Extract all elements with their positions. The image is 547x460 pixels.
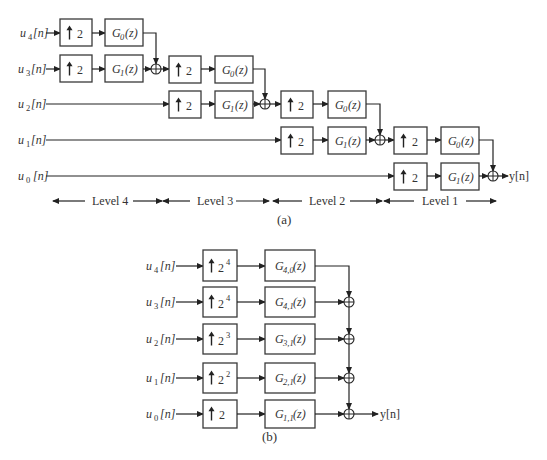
svg-text:2: 2 <box>298 99 304 113</box>
row-b-u4: u 4 [n] 2 4 G 4,0 (z) <box>146 250 349 297</box>
svg-text:u: u <box>146 407 152 421</box>
svg-text:(z): (z) <box>461 134 474 148</box>
svg-text:u: u <box>20 26 26 40</box>
svg-text:[n]: [n] <box>160 371 176 385</box>
output-label-a: y[n] <box>509 169 529 183</box>
svg-text:u: u <box>146 259 152 273</box>
svg-text:2: 2 <box>77 63 83 77</box>
svg-text:3,1: 3,1 <box>282 338 294 348</box>
svg-text:1: 1 <box>230 104 234 114</box>
svg-text:[n]: [n] <box>160 407 176 421</box>
input-label-u2: u 2 [n] <box>18 97 47 113</box>
svg-text:2: 2 <box>226 369 230 379</box>
svg-text:1: 1 <box>456 176 460 186</box>
filter-g0-l3: G 0 (z) <box>215 56 253 83</box>
row-b-u1: u 1 [n] 2 2 G 2,1 (z) <box>146 363 354 409</box>
svg-text:2: 2 <box>186 99 192 113</box>
svg-text:[n]: [n] <box>31 97 47 111</box>
svg-text:(z): (z) <box>461 170 474 184</box>
adder-l4 <box>151 64 161 74</box>
input-label-u4: u 4 [n] <box>20 26 49 42</box>
svg-text:u: u <box>18 97 24 111</box>
svg-text:2: 2 <box>218 373 224 387</box>
filter-g1-l3: G 1 (z) <box>215 91 253 118</box>
adder-l3 <box>260 99 270 109</box>
level-1-label: Level 1 <box>422 194 458 208</box>
svg-text:2: 2 <box>219 408 225 422</box>
adder-l2 <box>375 135 385 145</box>
filter-g0-l4: G 0 (z) <box>105 19 143 46</box>
input-label-u1: u 1 [n] <box>18 133 47 149</box>
upsampler-l4-u4: 2 <box>60 19 92 46</box>
svg-text:2: 2 <box>218 297 224 311</box>
adder-l1 <box>488 171 498 181</box>
svg-text:0: 0 <box>154 413 158 423</box>
svg-text:u: u <box>146 295 152 309</box>
row-b-u0: u 0 [n] 2 G 1,1 (z) y[n] <box>146 400 400 428</box>
svg-text:[n]: [n] <box>160 332 176 346</box>
svg-text:(z): (z) <box>293 295 306 309</box>
svg-text:(z): (z) <box>293 407 306 421</box>
svg-text:2: 2 <box>218 334 224 348</box>
caption-b: (b) <box>262 429 277 444</box>
svg-text:1: 1 <box>120 68 124 78</box>
filter-g1-l1: G 1 (z) <box>441 163 479 190</box>
filter-g0-l1: G 0 (z) <box>441 127 479 154</box>
svg-text:2: 2 <box>412 171 418 185</box>
svg-text:1: 1 <box>154 377 158 387</box>
svg-text:(z): (z) <box>348 134 361 148</box>
svg-text:u: u <box>18 169 24 183</box>
svg-text:[n]: [n] <box>31 62 47 76</box>
adder-b-1 <box>344 297 354 307</box>
upsampler-l2-top: 2 <box>281 91 313 118</box>
figure-b: u 4 [n] 2 4 G 4,0 (z) u 3 [n] 2 4 <box>146 250 400 444</box>
svg-text:u: u <box>18 133 24 147</box>
svg-text:[n]: [n] <box>160 259 176 273</box>
level-2-label: Level 2 <box>309 194 345 208</box>
figure-a: u 4 [n] u 3 [n] u 2 [n] u 1 [n] u 0 [n] <box>18 19 529 227</box>
level-4-label: Level 4 <box>92 194 128 208</box>
filter-bank-figure: u 4 [n] u 3 [n] u 2 [n] u 1 [n] u 0 [n] <box>0 0 547 460</box>
svg-text:4: 4 <box>154 265 159 275</box>
row-b-u3: u 3 [n] 2 4 G 4,1 (z) <box>146 287 354 334</box>
svg-text:3: 3 <box>26 68 30 78</box>
svg-text:(z): (z) <box>235 63 248 77</box>
svg-text:(z): (z) <box>125 62 138 76</box>
svg-text:[n]: [n] <box>31 133 47 147</box>
upsampler-l3-u2: 2 <box>169 91 201 118</box>
svg-text:2: 2 <box>186 64 192 78</box>
svg-text:2: 2 <box>77 27 83 41</box>
svg-text:3: 3 <box>154 301 158 311</box>
caption-a: (a) <box>277 212 291 227</box>
svg-text:1: 1 <box>26 139 30 149</box>
svg-text:2: 2 <box>298 135 304 149</box>
adder-b-3 <box>344 373 354 383</box>
svg-text:1: 1 <box>343 140 347 150</box>
upsampler-l2-u1: 2 <box>281 127 313 154</box>
upsampler-l1-top: 2 <box>394 127 427 154</box>
upsampler-l4-u3: 2 <box>60 55 92 82</box>
adder-b-2 <box>344 334 354 344</box>
filter-g1-l4: G 1 (z) <box>105 55 143 82</box>
upsampler-l3-top: 2 <box>169 56 201 83</box>
filter-g1-l2: G 1 (z) <box>328 127 366 154</box>
svg-text:(z): (z) <box>125 26 138 40</box>
svg-text:u: u <box>146 371 152 385</box>
svg-text:(z): (z) <box>293 371 306 385</box>
input-label-u0: u 0 [n] <box>18 169 49 185</box>
svg-text:2: 2 <box>26 103 30 113</box>
svg-text:u: u <box>146 332 152 346</box>
svg-text:(z): (z) <box>293 259 306 273</box>
upsampler-l1-u0: 2 <box>394 163 427 190</box>
svg-text:2: 2 <box>218 261 224 275</box>
svg-text:(z): (z) <box>348 98 361 112</box>
output-label-b: y[n] <box>380 407 400 421</box>
level-indicators: Level 4 Level 3 Level 2 Level 1 <box>53 194 496 208</box>
filter-g0-l2: G 0 (z) <box>328 91 366 118</box>
svg-text:3: 3 <box>226 330 230 340</box>
svg-text:0: 0 <box>26 175 30 185</box>
svg-text:2: 2 <box>154 338 158 348</box>
svg-text:(z): (z) <box>235 98 248 112</box>
svg-text:(z): (z) <box>293 332 306 346</box>
level-3-label: Level 3 <box>197 194 233 208</box>
